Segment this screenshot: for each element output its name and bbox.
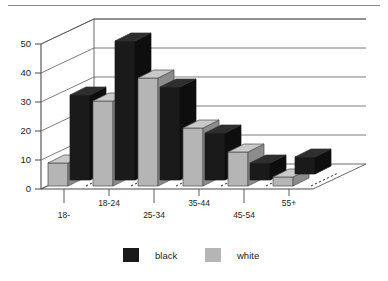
y-tick-label-40: 40 xyxy=(20,67,31,78)
chart-legend: black white xyxy=(123,248,259,262)
category-label-45-54: 45-54 xyxy=(233,210,255,220)
category-label-25-34: 25-34 xyxy=(143,210,165,220)
legend-label-white: white xyxy=(236,250,259,261)
category-label-18-24: 18-24 xyxy=(98,198,120,208)
legend-item-white[interactable]: white xyxy=(205,248,259,262)
chart-container: 0 10 20 30 40 50 xyxy=(0,0,388,281)
x-axis-labels: 18- 18-24 25-34 35-44 45-54 55+ xyxy=(58,198,296,220)
category-label-55-plus: 55+ xyxy=(282,198,296,208)
category-label-35-44: 35-44 xyxy=(188,198,210,208)
y-axis-ticks xyxy=(35,44,41,189)
legend-swatch-black xyxy=(123,248,139,262)
y-tick-label-0: 0 xyxy=(26,183,31,194)
bar-black-55-plus-back xyxy=(295,149,331,174)
y-tick-label-30: 30 xyxy=(20,96,31,107)
y-tick-label-20: 20 xyxy=(20,125,31,136)
legend-item-black[interactable]: black xyxy=(123,248,177,262)
category-label-18-minus: 18- xyxy=(58,210,70,220)
y-tick-label-50: 50 xyxy=(20,38,31,49)
bar-chart-3d: 0 10 20 30 40 50 xyxy=(0,0,388,281)
y-axis-labels: 0 10 20 30 40 50 xyxy=(20,38,31,194)
legend-label-black: black xyxy=(155,250,177,261)
y-tick-label-10: 10 xyxy=(20,154,31,165)
legend-swatch-white xyxy=(205,248,221,262)
